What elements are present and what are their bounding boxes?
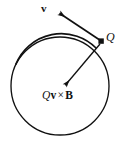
force-label-field: B: [65, 89, 73, 101]
force-label-charge: Q: [42, 89, 51, 101]
charge-label: Q: [106, 31, 115, 43]
velocity-vector-label: v: [41, 3, 47, 14]
magnetic-force-label: Qv×B: [42, 90, 73, 102]
magnetic-force-vector: [65, 44, 100, 85]
force-label-operator: ×: [56, 89, 65, 101]
physics-diagram-figure: v Q Qv×B: [0, 0, 128, 155]
charge-marker: [98, 38, 103, 43]
diagram-canvas: [0, 0, 128, 155]
